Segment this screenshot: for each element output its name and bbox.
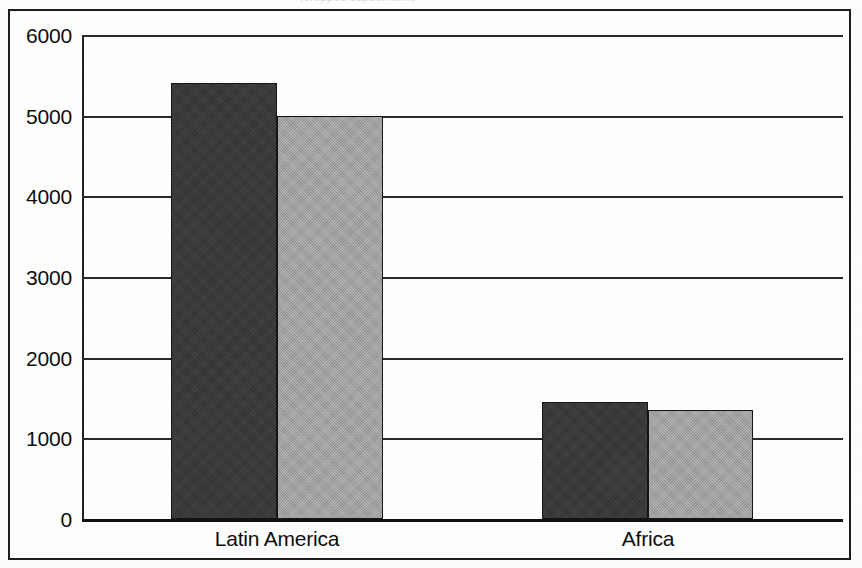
y-tick-label-4000: 4000 xyxy=(8,186,72,207)
gridline-6000 xyxy=(82,35,843,37)
y-tick-label-6000: 6000 xyxy=(8,25,72,46)
y-tick-label-2000: 2000 xyxy=(8,347,72,368)
chart-page: (cropped caption text) 01000200030004000… xyxy=(0,0,862,568)
bar-africa-series-1 xyxy=(542,402,648,519)
gridline-0 xyxy=(82,519,843,522)
bar-africa-series-2 xyxy=(648,410,753,519)
cropped-caption-sliver: (cropped caption text) xyxy=(0,0,862,7)
y-tick-label-1000: 1000 xyxy=(8,428,72,449)
y-tick-label-3000: 3000 xyxy=(8,267,72,288)
y-tick-label-0: 0 xyxy=(8,509,72,530)
bar-latin-america-series-2 xyxy=(277,116,383,519)
x-tick-label-africa: Africa xyxy=(498,527,798,550)
plot-area xyxy=(82,35,843,519)
cropped-caption-text: (cropped caption text) xyxy=(300,0,415,3)
y-tick-label-5000: 5000 xyxy=(8,105,72,126)
y-axis-tick-labels: 0100020003000400050006000 xyxy=(0,0,72,568)
bar-latin-america-series-1 xyxy=(171,83,277,519)
x-tick-label-latin-america: Latin America xyxy=(127,527,427,550)
